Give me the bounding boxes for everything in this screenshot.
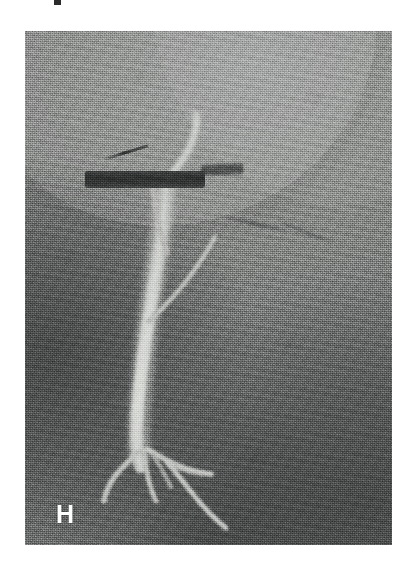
film-mottle-layer [25,31,392,545]
angiogram-image-panel[interactable]: H [25,31,392,545]
cropped-caption-mark [54,0,61,5]
panel-label-h: H [56,502,74,527]
figure-root: H [0,0,416,565]
